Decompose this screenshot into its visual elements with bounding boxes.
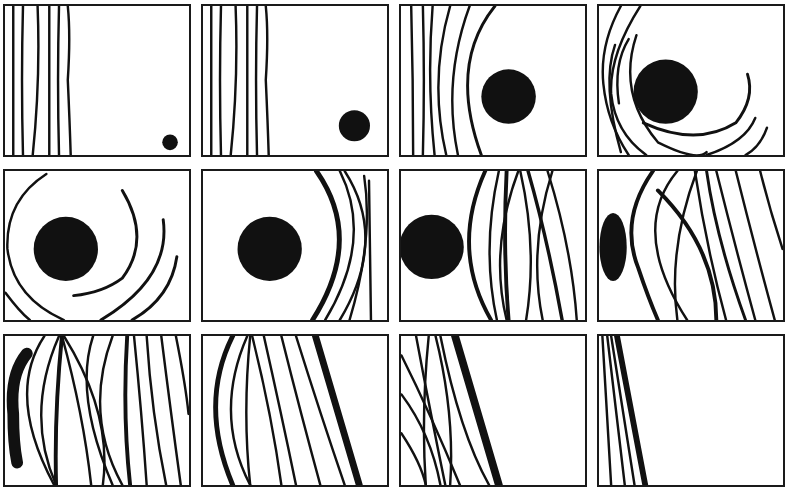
disk xyxy=(401,215,464,279)
disk xyxy=(162,135,178,151)
panel-4-drawing xyxy=(599,6,783,155)
panel-1-drawing xyxy=(5,6,189,155)
panel-7 xyxy=(399,169,587,322)
panel-11-drawing xyxy=(401,336,585,485)
panel-4 xyxy=(597,4,785,157)
panel-2-drawing xyxy=(203,6,387,155)
disk xyxy=(599,213,626,281)
panel-9-drawing xyxy=(5,336,189,485)
panel-1 xyxy=(3,4,191,157)
disk xyxy=(34,217,98,281)
panel-10 xyxy=(201,334,389,487)
panel-3 xyxy=(399,4,587,157)
panel-10-drawing xyxy=(203,336,387,485)
panel-6-drawing xyxy=(203,171,387,320)
panel-8-drawing xyxy=(599,171,783,320)
disk xyxy=(238,217,302,281)
panel-7-drawing xyxy=(401,171,585,320)
panel-9 xyxy=(3,334,191,487)
disk xyxy=(634,60,698,124)
panel-11 xyxy=(399,334,587,487)
panel-8 xyxy=(597,169,785,322)
disk xyxy=(481,69,536,124)
panel-5 xyxy=(3,169,191,322)
panel-12-drawing xyxy=(599,336,783,485)
disk xyxy=(339,110,370,141)
panel-6 xyxy=(201,169,389,322)
panel-12 xyxy=(597,334,785,487)
panel-3-drawing xyxy=(401,6,585,155)
panel-5-drawing xyxy=(5,171,189,320)
panel-2 xyxy=(201,4,389,157)
